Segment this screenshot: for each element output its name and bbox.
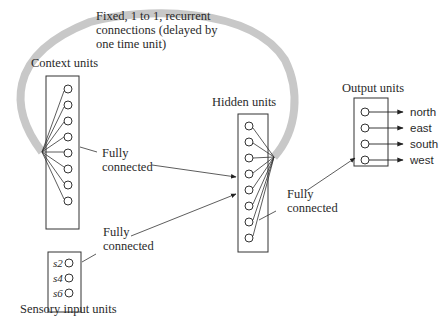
hidden-fan-lines [253, 128, 274, 236]
output-arrows [369, 112, 403, 160]
context-units-box [46, 76, 79, 229]
output-west-label: west [410, 153, 434, 167]
hidden-output-label-line1: Fully [287, 187, 313, 201]
output-units-label: Output units [342, 81, 404, 95]
output-units-box [354, 98, 388, 166]
output-east-label: east [410, 121, 432, 135]
recurrent-note-line2: connections (delayed by [96, 23, 217, 37]
hidden-units-box [238, 114, 268, 252]
context-hidden-label-line1: Fully [102, 146, 128, 160]
sensory-hidden-label-line1: Fully [103, 225, 129, 239]
diagram-canvas [0, 0, 447, 323]
hidden-units-label: Hidden units [212, 95, 276, 109]
context-hidden-label-line2: connected [102, 160, 153, 174]
output-units [361, 108, 369, 164]
sensory-unit-s2-label: s2 [53, 256, 63, 270]
recurrent-note-line3: one time unit) [96, 37, 166, 51]
sensory-units-label: Sensory input units [20, 302, 117, 316]
sensory-unit-s6-label: s6 [53, 286, 63, 300]
sensory-hidden-label-line2: connected [103, 239, 154, 253]
hidden-output-label-line2: connected [287, 201, 338, 215]
output-south-label: south [410, 137, 438, 151]
context-fan-lines [42, 91, 64, 199]
context-units-label: Context units [31, 56, 98, 70]
context-units [64, 85, 72, 205]
output-north-label: north [410, 105, 436, 119]
hidden-units [245, 122, 253, 242]
sensory-unit-s4-label: s4 [53, 271, 63, 285]
recurrent-note-line1: Fixed, 1 to 1, recurrent [96, 9, 211, 23]
